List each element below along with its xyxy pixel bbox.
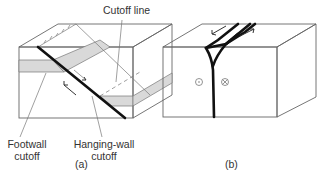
footwall-cutoff-line2: cutoff <box>2 150 52 162</box>
footwall-cutoff-label: Footwall cutoff <box>2 138 52 162</box>
cutoff-line-label: Cutoff line <box>103 4 150 16</box>
panel-a-block <box>19 20 172 137</box>
leader-footwall <box>20 73 46 137</box>
out-of-page-symbol <box>196 79 203 86</box>
panel-b-label: (b) <box>225 158 238 170</box>
panel-a-label: (a) <box>75 158 88 170</box>
leader-cutoff-line <box>116 20 122 82</box>
panel-b-block <box>163 24 316 117</box>
footwall-cutoff-line1: Footwall <box>2 138 52 150</box>
hangingwall-cutoff-line1: Hanging-wall <box>72 138 136 150</box>
leader-hangingwall <box>92 96 102 137</box>
into-page-symbol <box>222 79 229 86</box>
